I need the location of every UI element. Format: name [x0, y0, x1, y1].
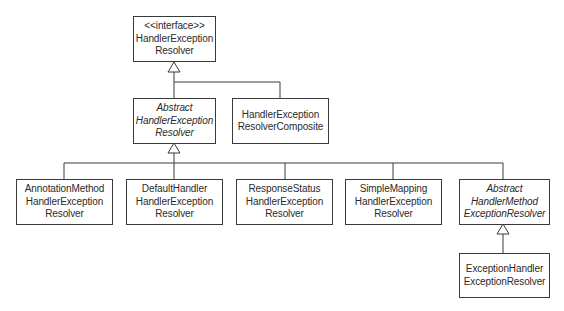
abstract-handler-method-exception-resolver: Abstract HandlerMethod ExceptionResolver [459, 179, 550, 225]
inheritance-arrowhead-icon [168, 143, 180, 153]
class-name-line: HandlerException [246, 196, 323, 209]
stereotype-label: <<interface>> [144, 20, 204, 33]
handler-exception-resolver-composite: HandlerException ResolverComposite [232, 98, 329, 144]
class-name-line: Resolver [265, 208, 304, 221]
interface-handler-exception-resolver: <<interface>> HandlerException Resolver [133, 16, 216, 62]
simple-mapping-handler-exception-resolver: SimpleMapping HandlerException Resolver [345, 179, 442, 225]
inheritance-arrowhead-icon [497, 224, 509, 234]
class-name-line: HandlerException [242, 109, 319, 122]
class-name-line: Resolver [155, 208, 194, 221]
response-status-handler-exception-resolver: ResponseStatus HandlerException Resolver [236, 179, 333, 225]
default-handler-exception-resolver: DefaultHandler HandlerException Resolver [126, 179, 223, 225]
class-name-line: Resolver [45, 208, 84, 221]
class-name-line: Abstract [157, 102, 193, 115]
class-name-line: HandlerException [136, 115, 213, 128]
class-name-line: HandlerException [136, 196, 213, 209]
exception-handler-exception-resolver: ExceptionHandler ExceptionResolver [459, 253, 550, 298]
class-name-line: ResolverComposite [238, 121, 324, 134]
class-name-line: ResponseStatus [249, 183, 321, 196]
abstract-handler-exception-resolver: Abstract HandlerException Resolver [133, 98, 216, 144]
class-name-line: ExceptionResolver [464, 208, 546, 221]
class-name-line: AnnotationMethod [25, 183, 105, 196]
class-name-line: HandlerException [136, 33, 213, 46]
class-name-line: Abstract [487, 183, 523, 196]
class-name-line: ExceptionResolver [464, 276, 546, 289]
class-name-line: SimpleMapping [360, 183, 428, 196]
inheritance-arrowhead-icon [168, 62, 180, 72]
class-name-line: HandlerException [355, 196, 432, 209]
class-name-line: DefaultHandler [142, 183, 207, 196]
class-name-line: HandlerMethod [471, 196, 538, 209]
class-hierarchy-diagram: <<interface>> HandlerException Resolver … [0, 0, 564, 311]
class-name-line: Resolver [374, 208, 413, 221]
class-name-line: ExceptionHandler [466, 263, 543, 276]
class-name-line: Resolver [155, 45, 194, 58]
annotation-method-handler-exception-resolver: AnnotationMethod HandlerException Resolv… [16, 179, 113, 225]
class-name-line: HandlerException [26, 196, 103, 209]
class-name-line: Resolver [155, 127, 194, 140]
